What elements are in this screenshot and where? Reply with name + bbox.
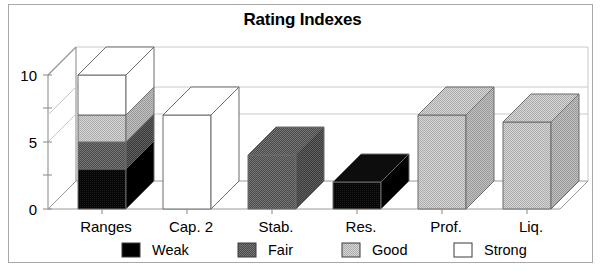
bar-ranges[interactable] [78,47,154,214]
legend-label-strong: Strong [484,242,527,258]
legend-item-weak[interactable]: Weak [122,242,190,258]
legend-swatch-strong [454,243,472,257]
bar-prof[interactable] [418,87,494,214]
legend-label-weak: Weak [152,242,190,258]
legend-swatch-weak [122,243,140,257]
y-axis: 0 5 10 [20,67,52,218]
y-tick-label-10: 10 [20,67,37,84]
bar-front [248,155,296,209]
x-tick-label-res: Res. [346,218,377,235]
bar-front [418,115,466,209]
chart-figure: Rating Indexes [0,0,605,273]
bar-front [503,122,551,209]
x-tick-label-stab: Stab. [258,218,293,235]
legend-swatch-good [342,243,360,257]
x-tick-label-ranges: Ranges [80,218,132,235]
bar-segment-fair-front [78,142,126,169]
x-tick-label-liq: Liq. [519,218,543,235]
legend-swatch-fair [238,243,256,257]
bar-segment-weak-front [78,169,126,209]
bar-stab[interactable] [248,127,324,214]
bar-segment-strong-front [78,75,126,115]
chart-legend: Weak Fair Good Strong [122,242,527,258]
bar-liq[interactable] [503,94,579,214]
bar-segment-good-front [78,115,126,142]
chart-plot-area: 0 5 10 Ranges [0,0,605,273]
legend-item-strong[interactable]: Strong [454,242,527,258]
bar-cap-2[interactable] [163,87,239,214]
legend-item-good[interactable]: Good [342,242,407,258]
bar-front [333,182,381,209]
x-tick-label-prof: Prof. [430,218,462,235]
y-tick-label-5: 5 [29,134,37,151]
legend-item-fair[interactable]: Fair [238,242,293,258]
bar-front [163,115,211,209]
y-tick-label-0: 0 [29,201,37,218]
bar-res[interactable] [333,154,409,214]
x-tick-label-cap-2: Cap. 2 [169,218,213,235]
legend-label-good: Good [372,242,407,258]
legend-label-fair: Fair [268,242,293,258]
